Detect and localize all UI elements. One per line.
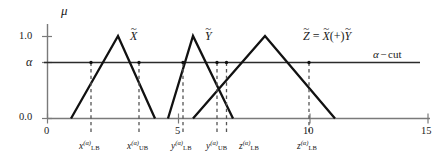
x-tick-label-15: 15 — [421, 126, 432, 137]
bound-sub-y-lb: LB — [183, 144, 192, 151]
bound-label-x-ub: x(α)UB — [127, 140, 148, 152]
equation-annotation: ~Z=~X(+)~Y — [303, 30, 351, 42]
bound-label-y-ub: y(α)UB — [206, 140, 227, 152]
node-y-lb — [181, 61, 184, 64]
alpha-cut-dash: − — [379, 48, 388, 60]
bound-sub-x-ub: UB — [139, 144, 148, 151]
tilde-accent-y: ~ — [205, 23, 211, 34]
tilde-accent-x: ~ — [131, 23, 137, 34]
alpha-cut-alpha: α — [373, 48, 379, 60]
bound-label-z-lb: z(α)LB — [239, 140, 259, 152]
equation-equals: = — [310, 29, 323, 43]
tilde-accent-x2: ~ — [323, 23, 329, 34]
bound-sub-y-ub: UB — [218, 144, 227, 151]
node-y-ub — [215, 61, 218, 64]
curve-x-tilde — [71, 36, 155, 119]
x-tick-label-5: 5 — [175, 126, 180, 137]
bound-sup-y-lb: (α) — [175, 139, 183, 146]
node-z-ub — [307, 61, 310, 64]
curve-y-tilde — [168, 36, 233, 119]
y-tick-label-0.0: 0.0 — [19, 112, 32, 123]
alpha-cut-word: cut — [388, 48, 401, 60]
bound-sup-x-lb: (α) — [83, 139, 91, 146]
bound-label-z-ub: z(α)LB — [297, 140, 317, 152]
curve-label-y: ~Y — [205, 30, 212, 42]
x-tick-label-0: 0 — [44, 126, 49, 137]
x-tick-label-10: 10 — [303, 126, 314, 137]
fuzzy-alpha-cut-figure: μ 1.0 α 0.0 0 5 10 15 ~X ~Y ~Z=~X(+)~Y α… — [0, 0, 440, 166]
bound-sup-x-ub: (α) — [131, 139, 139, 146]
bound-sup-y-ub: (α) — [210, 139, 218, 146]
equation-operator: (+) — [330, 29, 345, 43]
bound-label-y-lb: y(α)LB — [171, 140, 192, 152]
node-x-lb — [89, 61, 92, 64]
alpha-cut-annotation: α−cut — [373, 49, 401, 60]
bound-sub-z-ub: LB — [308, 144, 317, 151]
tilde-accent-y2: ~ — [345, 23, 351, 34]
bound-sub-z-lb: LB — [250, 144, 259, 151]
bound-label-x-lb: x(α)LB — [79, 140, 100, 152]
tilde-accent-z: ~ — [303, 23, 309, 34]
y-tick-label-alpha: α — [26, 56, 32, 68]
node-z-lb — [225, 61, 228, 64]
curve-label-x: ~X — [130, 30, 137, 42]
bound-sub-x-lb: LB — [91, 144, 100, 151]
node-x-ub — [137, 61, 140, 64]
y-axis-title: μ — [61, 4, 68, 17]
curve-z-tilde — [193, 36, 335, 119]
y-tick-label-1.0: 1.0 — [19, 31, 32, 42]
